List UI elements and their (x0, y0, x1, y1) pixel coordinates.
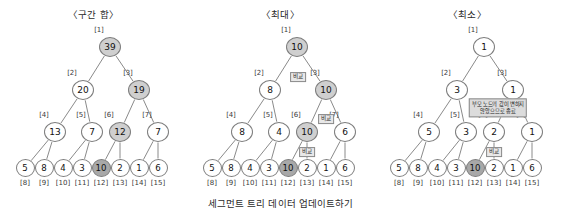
node-value: 6 (529, 163, 534, 172)
tree-node-5: 7 (81, 122, 103, 142)
tree-node-7: 1 (521, 122, 543, 142)
tree-node-9: 8 (222, 159, 241, 177)
node-index-label: [1] (281, 26, 290, 34)
node-value: 3 (454, 85, 460, 94)
node-value: 10 (301, 127, 312, 136)
node-value: 7 (155, 127, 161, 136)
tree-node-14: 1 (504, 159, 523, 177)
tree-node-13: 2 (485, 159, 504, 177)
node-value: 6 (342, 163, 347, 172)
node-value: 13 (49, 127, 60, 136)
tree-panel-minimum: 〈최소〉1[1]3[2]1[3]5[4]3[5]2[6]1[7]5[8]8[9]… (374, 0, 561, 195)
node-index-label: [9] (413, 179, 423, 187)
segment-tree-figure: 〈구간 합〉39[1]20[2]19[3]13[4]7[5]12[6]7[7]5… (0, 0, 561, 215)
node-value: 1 (510, 85, 516, 94)
node-index-label: [1] (94, 26, 103, 34)
node-index-label: [5] (263, 111, 272, 119)
compare-tag: 비교 (299, 147, 315, 157)
node-value: 6 (342, 127, 348, 136)
node-value: 4 (247, 163, 252, 172)
tree-node-14: 1 (130, 159, 149, 177)
node-value: 3 (463, 127, 469, 136)
tree-node-8: 5 (16, 159, 35, 177)
node-index-label: [8] (394, 179, 404, 187)
node-value: 8 (41, 163, 46, 172)
tree-node-10: 4 (54, 159, 73, 177)
node-value: 4 (276, 127, 282, 136)
node-value: 8 (228, 163, 233, 172)
tree-node-5: 4 (268, 122, 290, 142)
node-index-label: [2] (441, 69, 450, 77)
tree-node-15: 6 (523, 159, 542, 177)
tree-node-4: 8 (231, 122, 253, 142)
node-index-label: [3] (310, 69, 319, 77)
tree-node-1: 1 (473, 37, 495, 57)
node-value: 5 (209, 163, 214, 172)
tree-node-15: 6 (336, 159, 355, 177)
node-index-label: [15] (525, 179, 539, 187)
node-index-label: [4] (413, 111, 422, 119)
node-index-label: [14] (506, 179, 520, 187)
node-value: 7 (89, 127, 95, 136)
tree-node-13: 2 (111, 159, 130, 177)
tree-node-3: 1 (502, 80, 524, 100)
tree-node-11: 3 (447, 159, 466, 177)
node-index-label: [10] (243, 179, 257, 187)
node-value: 3 (453, 163, 458, 172)
node-index-label: [5] (76, 111, 85, 119)
tree-node-4: 5 (418, 122, 440, 142)
node-value: 2 (117, 163, 122, 172)
node-index-label: [11] (449, 179, 463, 187)
node-value: 4 (434, 163, 439, 172)
node-index-label: [4] (39, 111, 48, 119)
node-value: 8 (267, 85, 273, 94)
tree-node-6: 12 (109, 122, 131, 142)
tree-panel-maximum: 〈최대〉10[1]8[2]10[3]8[4]4[5]10[6]6[7]5[8]8… (187, 0, 374, 195)
node-index-label: [13] (487, 179, 501, 187)
node-value: 2 (304, 163, 309, 172)
tree-node-10: 4 (428, 159, 447, 177)
node-value: 10 (291, 42, 302, 51)
node-index-label: [13] (300, 179, 314, 187)
node-index-label: [2] (67, 69, 76, 77)
node-index-label: [10] (56, 179, 70, 187)
tree-node-10: 4 (241, 159, 260, 177)
annotation-note: 부모 노드의 값이 변하지않았으므로 종료 (469, 98, 527, 117)
node-index-label: [3] (497, 69, 506, 77)
node-value: 8 (415, 163, 420, 172)
tree-node-3: 19 (128, 80, 150, 100)
node-value: 2 (491, 127, 497, 136)
tree-node-9: 8 (35, 159, 54, 177)
node-value: 1 (529, 127, 535, 136)
tree-node-11: 3 (73, 159, 92, 177)
node-value: 5 (22, 163, 27, 172)
node-index-label: [3] (123, 69, 132, 77)
tree-node-4: 13 (44, 122, 66, 142)
node-index-label: [12] (468, 179, 482, 187)
node-value: 12 (114, 127, 125, 136)
node-index-label: [12] (94, 179, 108, 187)
node-value: 19 (133, 85, 144, 94)
node-index-label: [2] (254, 69, 263, 77)
node-index-label: [7] (142, 111, 151, 119)
node-index-label: [14] (132, 179, 146, 187)
node-value: 5 (396, 163, 401, 172)
tree-node-7: 6 (334, 122, 356, 142)
node-value: 1 (136, 163, 141, 172)
tree-node-6: 10 (296, 122, 318, 142)
tree-node-11: 3 (260, 159, 279, 177)
node-value: 4 (60, 163, 65, 172)
node-value: 20 (77, 85, 88, 94)
node-index-label: [9] (226, 179, 236, 187)
tree-node-12: 10 (92, 159, 111, 177)
tree-node-13: 2 (298, 159, 317, 177)
tree-node-7: 7 (147, 122, 169, 142)
node-index-label: [11] (75, 179, 89, 187)
node-index-label: [9] (39, 179, 49, 187)
tree-node-14: 1 (317, 159, 336, 177)
tree-node-2: 8 (259, 80, 281, 100)
node-index-label: [15] (151, 179, 165, 187)
node-value: 3 (79, 163, 84, 172)
node-index-label: [10] (430, 179, 444, 187)
node-value: 8 (239, 127, 245, 136)
